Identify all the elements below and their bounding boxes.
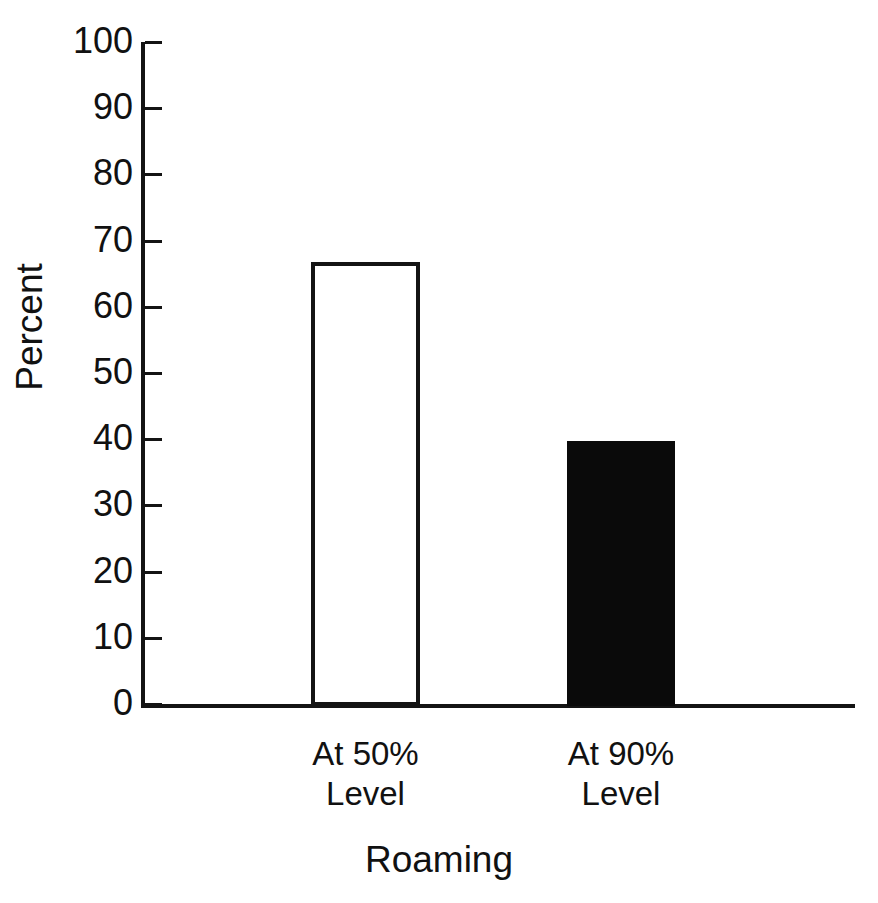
category-label-line2: Level (491, 774, 751, 814)
bar-2 (567, 441, 675, 706)
y-axis-tick-label-40: 40 (13, 420, 133, 456)
y-axis-tick-label-wrap: 100 (0, 23, 133, 59)
y-axis-line (141, 42, 145, 708)
bar-chart: Percent 0102030405060708090100 At 50%Lev… (0, 0, 878, 903)
x-axis-category-label-2: At 90%Level (491, 734, 751, 814)
y-axis-tick-label-80: 80 (13, 155, 133, 191)
y-axis-tick-70 (145, 240, 162, 243)
y-axis-tick-0 (145, 703, 162, 706)
y-axis-tick-label-wrap: 40 (0, 420, 133, 456)
y-axis-tick-80 (145, 173, 162, 176)
y-axis-tick-90 (145, 107, 162, 110)
category-label-line1: At 50% (312, 735, 418, 772)
y-axis-tick-label-50: 50 (13, 354, 133, 390)
bar-1 (311, 262, 420, 706)
y-axis-tick-10 (145, 637, 162, 640)
y-axis-tick-20 (145, 571, 162, 574)
y-axis-tick-label-wrap: 50 (0, 354, 133, 390)
y-axis-tick-label-0: 0 (13, 685, 133, 721)
y-axis-tick-label-10: 10 (13, 619, 133, 655)
y-axis-tick-100 (145, 41, 162, 44)
y-axis-tick-label-70: 70 (13, 222, 133, 258)
y-axis-tick-label-wrap: 30 (0, 486, 133, 522)
x-axis-title: Roaming (0, 838, 878, 882)
y-axis-tick-label-wrap: 10 (0, 619, 133, 655)
y-axis-tick-label-wrap: 0 (0, 685, 133, 721)
y-axis-tick-label-wrap: 70 (0, 222, 133, 258)
y-axis-tick-label-wrap: 90 (0, 89, 133, 125)
y-axis-tick-40 (145, 438, 162, 441)
y-axis-tick-label-60: 60 (13, 288, 133, 324)
y-axis-tick-label-20: 20 (13, 553, 133, 589)
y-axis-tick-50 (145, 372, 162, 375)
x-axis-category-label-1: At 50%Level (236, 734, 496, 814)
y-axis-tick-label-wrap: 20 (0, 553, 133, 589)
y-axis-tick-label-90: 90 (13, 89, 133, 125)
category-label-line1: At 90% (568, 735, 674, 772)
y-axis-tick-60 (145, 306, 162, 309)
y-axis-tick-label-wrap: 60 (0, 288, 133, 324)
y-axis-tick-label-wrap: 80 (0, 155, 133, 191)
y-axis-tick-30 (145, 504, 162, 507)
y-axis-tick-label-100: 100 (13, 23, 133, 59)
y-axis-tick-label-30: 30 (13, 486, 133, 522)
category-label-line2: Level (236, 774, 496, 814)
x-axis-line (141, 704, 855, 708)
